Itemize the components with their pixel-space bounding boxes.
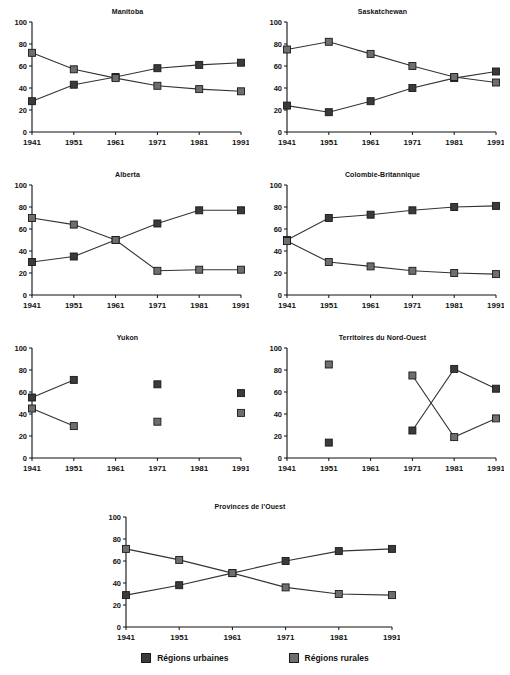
y-tick-label: 100: [14, 344, 27, 353]
data-point-marker[interactable]: [70, 221, 77, 228]
data-point-marker[interactable]: [325, 259, 332, 266]
data-point-marker[interactable]: [367, 50, 374, 57]
chart-canvas: 020406080100194119511961197119811991: [261, 171, 504, 321]
data-point-marker[interactable]: [238, 390, 245, 397]
y-tick-label: 60: [113, 557, 121, 566]
data-point-marker[interactable]: [284, 102, 291, 109]
data-point-marker[interactable]: [123, 545, 130, 552]
data-point-marker[interactable]: [367, 211, 374, 218]
data-point-marker[interactable]: [70, 423, 77, 430]
data-point-marker[interactable]: [123, 592, 130, 599]
y-tick-label: 40: [19, 410, 27, 419]
data-point-marker[interactable]: [284, 238, 291, 245]
data-point-marker[interactable]: [493, 385, 500, 392]
data-point-marker[interactable]: [335, 591, 342, 598]
data-point-marker[interactable]: [196, 61, 203, 68]
data-point-marker[interactable]: [112, 75, 119, 82]
data-point-marker[interactable]: [367, 263, 374, 270]
y-tick-label: 60: [19, 225, 27, 234]
data-point-marker[interactable]: [389, 592, 396, 599]
data-point-marker[interactable]: [229, 570, 236, 577]
data-point-marker[interactable]: [238, 88, 245, 95]
x-tick-label: 1951: [65, 464, 83, 473]
data-point-marker[interactable]: [282, 584, 289, 591]
data-point-marker[interactable]: [451, 204, 458, 211]
series-line: [32, 409, 74, 427]
legend-item-urbaines[interactable]: Régions urbaines: [141, 653, 228, 663]
legend-item-rurales[interactable]: Régions rurales: [289, 653, 369, 663]
data-point-marker[interactable]: [29, 98, 36, 105]
data-point-marker[interactable]: [325, 439, 332, 446]
data-point-marker[interactable]: [196, 266, 203, 273]
chart-panel-yukon: Yukon02040608010019411951196119711981199…: [6, 334, 249, 484]
data-point-marker[interactable]: [493, 79, 500, 86]
y-tick-label: 20: [274, 432, 282, 441]
data-point-marker[interactable]: [325, 38, 332, 45]
data-point-marker[interactable]: [284, 46, 291, 53]
data-point-marker[interactable]: [154, 82, 161, 89]
x-tick-label: 1951: [320, 301, 338, 310]
chart-canvas: 020406080100194119511961197119811991: [6, 171, 249, 321]
data-point-marker[interactable]: [367, 98, 374, 105]
data-point-marker[interactable]: [154, 267, 161, 274]
data-point-marker[interactable]: [154, 418, 161, 425]
data-point-marker[interactable]: [325, 215, 332, 222]
data-point-marker[interactable]: [409, 372, 416, 379]
data-point-marker[interactable]: [154, 381, 161, 388]
data-point-marker[interactable]: [409, 427, 416, 434]
data-point-marker[interactable]: [389, 545, 396, 552]
data-point-marker[interactable]: [154, 65, 161, 72]
y-tick-label: 20: [19, 269, 27, 278]
y-tick-label: 80: [19, 203, 27, 212]
data-point-marker[interactable]: [238, 207, 245, 214]
data-point-marker[interactable]: [493, 202, 500, 209]
y-tick-label: 0: [278, 291, 282, 300]
data-point-marker[interactable]: [409, 207, 416, 214]
y-tick-label: 60: [19, 388, 27, 397]
data-point-marker[interactable]: [238, 59, 245, 66]
y-tick-label: 80: [113, 535, 121, 544]
x-tick-label: 1961: [362, 464, 380, 473]
data-point-marker[interactable]: [451, 270, 458, 277]
data-point-marker[interactable]: [451, 74, 458, 81]
data-point-marker[interactable]: [29, 394, 36, 401]
data-point-marker[interactable]: [70, 81, 77, 88]
x-tick-label: 1971: [277, 633, 295, 642]
data-point-marker[interactable]: [335, 548, 342, 555]
data-point-marker[interactable]: [238, 409, 245, 416]
data-point-marker[interactable]: [493, 68, 500, 75]
data-point-marker[interactable]: [409, 85, 416, 92]
data-point-marker[interactable]: [282, 558, 289, 565]
data-point-marker[interactable]: [493, 415, 500, 422]
data-point-marker[interactable]: [176, 556, 183, 563]
data-point-marker[interactable]: [451, 365, 458, 372]
data-point-marker[interactable]: [29, 405, 36, 412]
data-point-marker[interactable]: [196, 86, 203, 93]
data-point-marker[interactable]: [29, 215, 36, 222]
chart-title: Saskatchewan: [261, 8, 504, 15]
y-tick-label: 0: [23, 128, 27, 137]
data-point-marker[interactable]: [238, 266, 245, 273]
data-point-marker[interactable]: [70, 376, 77, 383]
data-point-marker[interactable]: [112, 237, 119, 244]
x-tick-label: 1981: [190, 301, 208, 310]
data-point-marker[interactable]: [29, 259, 36, 266]
data-point-marker[interactable]: [196, 207, 203, 214]
data-point-marker[interactable]: [154, 220, 161, 227]
data-point-marker[interactable]: [325, 109, 332, 116]
data-point-marker[interactable]: [70, 253, 77, 260]
data-point-marker[interactable]: [409, 63, 416, 70]
y-tick-label: 60: [274, 225, 282, 234]
data-point-marker[interactable]: [451, 434, 458, 441]
legend-swatch-rurales: [289, 653, 299, 663]
series-line: [287, 72, 496, 113]
chart-title: Yukon: [6, 334, 249, 341]
data-point-marker[interactable]: [176, 582, 183, 589]
x-tick-label: 1961: [224, 633, 242, 642]
data-point-marker[interactable]: [409, 267, 416, 274]
data-point-marker[interactable]: [29, 49, 36, 56]
y-tick-label: 0: [278, 454, 282, 463]
data-point-marker[interactable]: [325, 361, 332, 368]
data-point-marker[interactable]: [493, 271, 500, 278]
data-point-marker[interactable]: [70, 66, 77, 73]
